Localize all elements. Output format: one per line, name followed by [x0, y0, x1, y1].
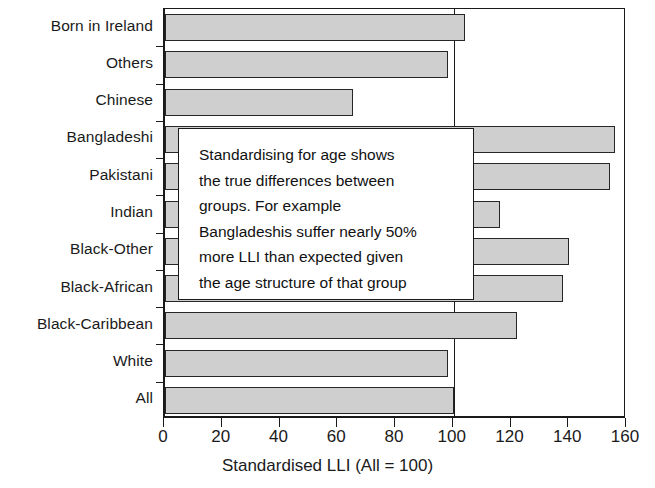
category-tick-mark	[156, 270, 165, 271]
x-axis-tick	[163, 418, 164, 427]
category-tick-mark	[156, 233, 165, 234]
category-label-white: White	[113, 352, 153, 370]
category-tick-mark	[156, 344, 165, 345]
bar-white	[165, 350, 448, 377]
category-tick-mark	[156, 158, 165, 159]
x-axis-tick	[336, 418, 337, 427]
category-label-pakistani: Pakistani	[89, 166, 153, 184]
x-axis-tick-label: 40	[269, 427, 288, 447]
x-axis-tick-label: 160	[611, 427, 639, 447]
category-label-indian: Indian	[110, 203, 153, 221]
bar-black-caribbean	[165, 312, 517, 339]
x-axis-tick-label: 20	[211, 427, 230, 447]
category-label-others: Others	[106, 54, 153, 72]
bar-row	[165, 14, 624, 41]
bar-row	[165, 387, 624, 414]
category-label-born-in-ireland: Born in Ireland	[51, 17, 153, 35]
category-label-black-caribbean: Black-Caribbean	[37, 315, 153, 333]
bar-row	[165, 89, 624, 116]
category-tick-mark	[156, 307, 165, 308]
category-tick-mark	[156, 84, 165, 85]
category-tick-mark	[156, 382, 165, 383]
x-axis-tick	[452, 418, 453, 427]
x-axis-tick-label: 100	[438, 427, 466, 447]
x-axis-tick	[625, 418, 626, 427]
bar-chinese	[165, 89, 353, 116]
annotation-callout-text: Standardising for age shows the true dif…	[199, 142, 459, 295]
bar-row	[165, 312, 624, 339]
x-axis-tick-label: 140	[553, 427, 581, 447]
bar-row	[165, 350, 624, 377]
x-axis-tick-labels: 020406080100120140160	[163, 427, 625, 451]
x-axis-tick	[279, 418, 280, 427]
category-label-black-african: Black-African	[60, 278, 153, 296]
x-axis-tick-label: 60	[327, 427, 346, 447]
category-tick-mark	[156, 121, 165, 122]
x-axis-tick-label: 0	[158, 427, 167, 447]
x-axis-tick-label: 120	[495, 427, 523, 447]
bar-born-in-ireland	[165, 14, 465, 41]
bar-others	[165, 51, 448, 78]
x-axis-tick	[567, 418, 568, 427]
bar-chart-figure: Born in IrelandOthersChineseBangladeshiP…	[0, 0, 655, 488]
annotation-callout: Standardising for age shows the true dif…	[178, 128, 474, 300]
category-label-black-other: Black-Other	[70, 240, 153, 258]
x-axis-title: Standardised LLI (All = 100)	[0, 456, 655, 476]
category-label-bangladeshi: Bangladeshi	[67, 128, 153, 146]
category-label-all: All	[135, 389, 153, 407]
bar-all	[165, 387, 454, 414]
x-axis-tick-label: 80	[385, 427, 404, 447]
x-axis-tick	[221, 418, 222, 427]
category-tick-mark	[156, 195, 165, 196]
x-axis-tick	[510, 418, 511, 427]
bar-row	[165, 51, 624, 78]
x-axis-tick	[394, 418, 395, 427]
category-tick-mark	[156, 46, 165, 47]
category-axis-labels: Born in IrelandOthersChineseBangladeshiP…	[0, 8, 153, 418]
category-label-chinese: Chinese	[95, 91, 153, 109]
